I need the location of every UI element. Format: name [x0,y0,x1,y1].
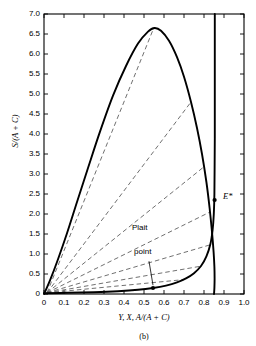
plait-point-label-2: point [134,247,151,256]
e-star-label: E* [223,191,232,201]
plait-point-leader-line [149,261,153,285]
y-tick-label: 0.5 [14,269,40,278]
y-tick-label: 3.0 [14,169,40,178]
tie-line-6 [47,266,202,293]
binodal-curve [44,28,215,294]
data-point-markers [151,198,217,290]
y-tick-label: 7.0 [14,9,40,18]
tie-line-2 [47,102,191,293]
figure-container: S/(A + C) Y, X, A/(A + C) (b) 00.51.01.5… [0,0,256,346]
tie-line-3 [47,167,204,293]
e-star-point-marker [213,198,217,202]
y-tick-label: 6.5 [14,29,40,38]
y-tick-label: 2.5 [14,189,40,198]
lower-binodal-branch [44,14,215,293]
y-tick-label: 4.5 [14,109,40,118]
y-tick-label: 1.5 [14,229,40,238]
y-tick-label: 3.5 [14,149,40,158]
y-tick-label: 6.0 [14,49,40,58]
y-tick-label: 5.0 [14,89,40,98]
plait-point-label: Plait [132,223,148,232]
y-tick-label: 0 [14,289,40,298]
y-tick-label: 1.0 [14,249,40,258]
plait-point-marker [151,286,155,290]
annotation-leader-lines [149,261,153,285]
x-tick-label: 1.0 [232,298,256,307]
y-tick-label: 2.0 [14,209,40,218]
tie-lines-group [47,28,213,292]
figure-caption: (b) [44,332,244,341]
y-tick-label: 5.5 [14,69,40,78]
x-axis-label: Y, X, A/(A + C) [44,312,244,322]
y-tick-label: 4.0 [14,129,40,138]
